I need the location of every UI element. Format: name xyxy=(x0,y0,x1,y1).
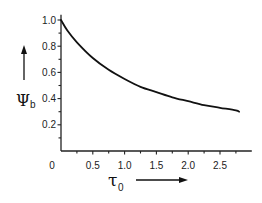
y-axis-label: Ψ b xyxy=(16,45,36,110)
x-tick-label: 2.5 xyxy=(213,160,227,171)
x-tick-label: 0.5 xyxy=(86,160,100,171)
x-tick-label: 1.0 xyxy=(118,160,132,171)
series xyxy=(61,20,239,112)
y-tick-label: 0.8 xyxy=(42,41,56,52)
tick-labels: 0.20.40.60.81.00.51.01.52.02.50 xyxy=(42,15,227,172)
x-tick-label: 1.5 xyxy=(149,160,163,171)
y-label-symbol: Ψ xyxy=(16,91,30,110)
x-tick-label: 2.0 xyxy=(181,160,195,171)
ticks xyxy=(58,20,236,155)
y-tick-label: 0.6 xyxy=(42,67,56,78)
arrow-right-icon xyxy=(179,177,188,183)
axes xyxy=(61,15,252,151)
data-curve xyxy=(61,20,239,112)
x-label-symbol: τ xyxy=(108,170,117,190)
y-tick-label: 0.2 xyxy=(42,119,56,130)
y-label-subscript: b xyxy=(30,99,36,110)
chart: 0.20.40.60.81.00.51.01.52.02.50 Ψ b τ 0 xyxy=(0,0,262,203)
y-tick-label: 0.4 xyxy=(42,93,56,104)
x-label-subscript: 0 xyxy=(118,182,124,193)
origin-label: 0 xyxy=(49,160,55,171)
x-axis-label: τ 0 xyxy=(108,170,188,193)
y-tick-label: 1.0 xyxy=(42,15,56,26)
arrow-up-icon xyxy=(21,45,27,54)
